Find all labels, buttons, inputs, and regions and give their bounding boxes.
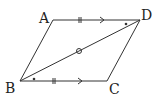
angle-dot-b: [33, 78, 36, 81]
segment-cd: [107, 20, 140, 81]
figure-canvas: [0, 0, 159, 102]
label-b: B: [5, 81, 15, 95]
label-c: C: [109, 82, 120, 96]
segment-ab: [20, 20, 53, 81]
angle-dot-d: [125, 23, 128, 26]
parallelogram-diagram: A D B C: [0, 0, 159, 102]
label-d: D: [141, 8, 152, 22]
diagonal-bd: [20, 20, 140, 81]
label-a: A: [39, 11, 49, 25]
